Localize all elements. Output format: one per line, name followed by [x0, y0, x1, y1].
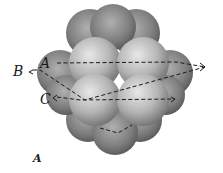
- label-c: C: [40, 92, 51, 106]
- label-a: A: [40, 56, 50, 70]
- figure-caption: A: [33, 152, 42, 165]
- arrow-b-left-icon: [29, 70, 33, 74]
- sphere-cluster-diagram: [0, 0, 223, 173]
- label-b: B: [13, 64, 23, 78]
- sphere-packing-figure: A B C A: [0, 0, 223, 173]
